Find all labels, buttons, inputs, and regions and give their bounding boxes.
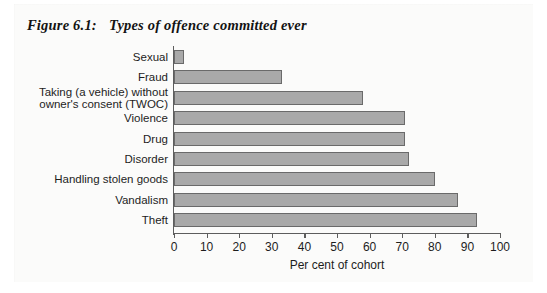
x-axis-tick-label: 30 <box>265 240 278 254</box>
bar <box>174 50 184 64</box>
category-label: Vandalism <box>115 194 168 207</box>
bar <box>174 172 435 186</box>
bar <box>174 111 405 125</box>
x-axis-tick-label: 10 <box>200 240 213 254</box>
bar <box>174 152 409 166</box>
category-label: Violence <box>124 112 168 125</box>
x-axis-tick-label: 80 <box>428 240 441 254</box>
bar-row: Disorder <box>174 152 500 166</box>
bar <box>174 213 477 227</box>
bar-row: Vandalism <box>174 193 500 207</box>
x-axis-tick-label: 0 <box>171 240 178 254</box>
x-axis-tick-label: 100 <box>490 240 510 254</box>
bar <box>174 132 405 146</box>
category-label: Taking (a vehicle) without owner's conse… <box>39 85 168 110</box>
bar <box>174 91 363 105</box>
x-axis-title: Per cent of cohort <box>290 258 385 272</box>
bar-row: Violence <box>174 111 500 125</box>
bar <box>174 193 458 207</box>
category-label: Handling stolen goods <box>54 173 168 186</box>
bar-row: Fraud <box>174 70 500 84</box>
x-axis-tick-label: 50 <box>330 240 343 254</box>
x-axis-tick-mark <box>174 233 175 238</box>
x-axis-tick-label: 70 <box>396 240 409 254</box>
category-label: Sexual <box>133 51 168 64</box>
category-label: Drug <box>143 132 168 145</box>
bar-row: Taking (a vehicle) without owner's conse… <box>174 91 500 105</box>
x-axis-tick-mark <box>370 233 371 238</box>
x-axis-tick-mark <box>500 233 501 238</box>
x-axis-tick-mark <box>272 233 273 238</box>
plot-area: SexualFraudTaking (a vehicle) without ow… <box>174 48 500 233</box>
bar-row: Handling stolen goods <box>174 172 500 186</box>
x-axis-tick-mark <box>239 233 240 238</box>
bar-row: Sexual <box>174 50 500 64</box>
x-axis-tick-mark <box>435 233 436 238</box>
x-axis-tick-label: 40 <box>298 240 311 254</box>
bar-row: Theft <box>174 213 500 227</box>
x-axis-tick-mark <box>402 233 403 238</box>
bar-row: Drug <box>174 132 500 146</box>
x-axis-tick-mark <box>207 233 208 238</box>
figure-page: Figure 6.1:Types of offence committed ev… <box>0 0 547 293</box>
x-axis-tick-label: 60 <box>363 240 376 254</box>
x-axis-tick-label: 20 <box>233 240 246 254</box>
x-axis-tick-mark <box>467 233 468 238</box>
bar <box>174 70 282 84</box>
x-axis-tick-mark <box>304 233 305 238</box>
x-axis-tick-mark <box>337 233 338 238</box>
category-label: Disorder <box>125 153 168 166</box>
x-axis-tick-label: 90 <box>461 240 474 254</box>
category-label: Fraud <box>138 71 168 84</box>
category-label: Theft <box>142 214 168 227</box>
bar-chart: SexualFraudTaking (a vehicle) without ow… <box>0 0 547 293</box>
